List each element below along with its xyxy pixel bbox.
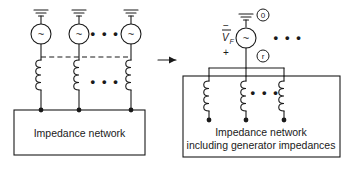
inductor-3 <box>279 76 287 122</box>
generator-1: ~ <box>31 10 51 112</box>
terminal-dot <box>207 118 212 123</box>
ac-source-symbol: ~ <box>76 28 82 40</box>
circuit-diagram-svg: ~ ~ <box>0 0 357 169</box>
ground-icon <box>72 10 86 24</box>
inductor-2 <box>241 76 249 122</box>
node-label-0: 0 <box>261 11 266 20</box>
inductor-3 <box>126 60 131 90</box>
generator-ellipsis: • • • <box>91 26 120 41</box>
voltage-subscript: F <box>230 38 235 45</box>
ground-icon <box>239 14 253 27</box>
right-diagram-group: 0 ~ r • • • V F − + <box>183 9 340 157</box>
ac-source-symbol: ~ <box>128 28 134 40</box>
ground-icon <box>124 10 138 24</box>
polarity-plus: + <box>223 47 229 58</box>
inductor-ellipsis: • • • <box>251 85 280 100</box>
voltage-label-group: V F − + <box>222 20 235 58</box>
inductor-1 <box>204 76 212 122</box>
inductor-ellipsis: • • • <box>91 74 120 89</box>
ac-source-symbol: ~ <box>243 32 249 44</box>
impedance-network-label-line1: Impedance network <box>215 126 307 138</box>
impedance-network-label-line2: including generator impedances <box>187 139 336 151</box>
generator-3: ~ <box>121 10 141 112</box>
figure-canvas: ~ ~ <box>0 0 357 169</box>
polarity-minus: − <box>223 20 229 31</box>
source-ellipsis: • • • <box>274 30 303 45</box>
equivalence-arrow <box>158 57 176 64</box>
inductor-1 <box>36 60 41 90</box>
ac-source-symbol: ~ <box>38 28 44 40</box>
ground-icon <box>34 10 48 24</box>
terminal-dot <box>282 118 287 123</box>
generator-2: ~ <box>69 10 89 112</box>
terminal-dot <box>244 118 249 123</box>
left-diagram-group: ~ ~ <box>14 10 145 155</box>
impedance-network-label: Impedance network <box>34 127 126 139</box>
inductor-2 <box>74 60 79 90</box>
node-label-r: r <box>262 52 265 61</box>
